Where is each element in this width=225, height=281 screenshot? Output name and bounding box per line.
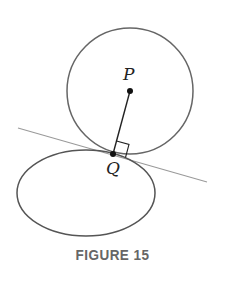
ellipse (17, 150, 155, 236)
label-p: P (123, 64, 134, 84)
point-q (110, 151, 116, 157)
diagram-svg (0, 0, 225, 281)
point-p (127, 88, 133, 94)
figure-canvas: P Q FIGURE 15 (0, 0, 225, 281)
figure-caption: FIGURE 15 (11, 246, 214, 263)
label-q: Q (106, 158, 120, 178)
